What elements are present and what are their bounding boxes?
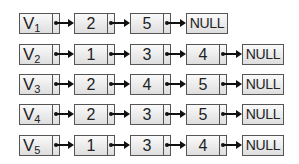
list-node: 5 [130,13,171,34]
node-value: 3 [131,45,163,64]
arrow-icon [167,53,186,55]
node-value: 3 [131,136,163,155]
arrow-icon [223,83,242,85]
head-node: V2 [19,44,60,65]
node-value: 1 [75,45,107,64]
list-node: 5 [186,104,227,125]
arrow-line [167,144,181,146]
node-value: 1 [75,136,107,155]
arrow-line [167,83,181,85]
arrow-line [111,113,125,115]
head-label: V1 [20,14,52,33]
arrow-line [167,53,181,55]
list-node: 4 [130,74,171,95]
head-label: V5 [20,136,52,155]
arrow-icon [111,83,130,85]
head-node: V3 [19,74,60,95]
list-node: 2 [74,13,115,34]
arrow-icon [56,53,74,55]
arrow-icon [56,144,74,146]
node-value: 4 [187,45,219,64]
vertex-subscript: 3 [34,83,40,95]
arrow-icon [56,22,74,24]
node-value: 5 [131,14,163,33]
node-value: 2 [75,75,107,94]
arrow-line [223,113,237,115]
arrow-line [111,22,125,24]
node-value: 5 [187,105,219,124]
node-value: 5 [187,75,219,94]
list-row: V3245NULL [0,74,299,95]
vertex-subscript: 2 [34,53,40,65]
arrow-icon [167,113,186,115]
head-label: V4 [20,105,52,124]
list-node: 1 [74,135,115,156]
arrow-line [223,144,237,146]
arrow-icon [167,83,186,85]
list-node: 4 [186,135,227,156]
arrow-icon [111,53,130,55]
arrow-icon [111,113,130,115]
vertex-letter: V [23,45,34,64]
vertex-letter: V [23,14,34,33]
list-row: V5134NULL [0,135,299,156]
arrow-line [223,83,237,85]
null-terminator: NULL [242,104,284,125]
vertex-subscript: 4 [34,113,40,125]
null-terminator: NULL [242,135,284,156]
arrow-line [111,83,125,85]
head-label: V3 [20,75,52,94]
arrow-icon [111,144,130,146]
arrow-icon [56,113,74,115]
arrow-line [167,113,181,115]
list-node: 2 [74,74,115,95]
vertex-subscript: 1 [34,22,40,34]
list-node: 3 [130,104,171,125]
null-terminator: NULL [186,13,228,34]
node-value: 2 [75,14,107,33]
node-value: 3 [131,105,163,124]
head-label: V2 [20,45,52,64]
arrow-line [223,53,237,55]
list-node: 1 [74,44,115,65]
list-row: V2134NULL [0,44,299,65]
head-node: V4 [19,104,60,125]
list-node: 2 [74,104,115,125]
node-value: 4 [187,136,219,155]
node-value: 4 [131,75,163,94]
arrow-icon [223,53,242,55]
arrow-line [167,22,181,24]
vertex-letter: V [23,105,34,124]
vertex-subscript: 5 [34,144,40,156]
list-row: V125NULL [0,13,299,34]
arrow-icon [111,22,130,24]
arrow-icon [223,144,242,146]
list-node: 4 [186,44,227,65]
head-node: V5 [19,135,60,156]
arrow-icon [167,144,186,146]
arrow-line [111,144,125,146]
list-node: 5 [186,74,227,95]
arrow-line [111,53,125,55]
arrow-icon [167,22,186,24]
null-terminator: NULL [242,74,284,95]
arrow-icon [56,83,74,85]
arrow-icon [223,113,242,115]
list-row: V4235NULL [0,104,299,125]
node-value: 2 [75,105,107,124]
vertex-letter: V [23,75,34,94]
head-node: V1 [19,13,60,34]
vertex-letter: V [23,136,34,155]
list-node: 3 [130,135,171,156]
null-terminator: NULL [242,44,284,65]
list-node: 3 [130,44,171,65]
